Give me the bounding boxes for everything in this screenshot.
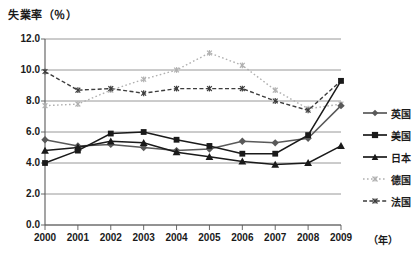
x-axis-tick-label: 2001 — [62, 232, 94, 243]
legend-label: 英国 — [391, 106, 411, 121]
plot-area — [0, 0, 416, 265]
series-line-德国 — [45, 53, 341, 109]
x-axis-tick-label: 2008 — [292, 232, 324, 243]
legend-label: 德国 — [391, 172, 411, 187]
legend-marker-diamond-icon — [362, 107, 388, 119]
y-axis-tick-label: 2.0 — [9, 188, 40, 199]
series-line-美国 — [45, 81, 341, 163]
legend-marker-star-icon — [362, 173, 388, 185]
data-point-美国 — [338, 78, 344, 84]
data-point-英国 — [239, 138, 246, 145]
x-axis-tick-label: 2007 — [259, 232, 291, 243]
x-axis-tick-label: 2003 — [128, 232, 160, 243]
data-point-英国 — [41, 136, 48, 143]
legend-label: 美国 — [391, 128, 411, 143]
legend-marker-square-icon — [362, 129, 388, 141]
legend-marker-star-icon — [362, 195, 388, 207]
x-axis-tick-label: 2005 — [193, 232, 225, 243]
series-line-日本 — [45, 141, 341, 164]
data-point-美国 — [174, 137, 180, 143]
legend-item-英国[interactable]: 英国 — [362, 102, 411, 124]
x-axis-tick-label: 2000 — [29, 232, 61, 243]
data-point-美国 — [272, 151, 278, 157]
data-point-英国 — [272, 139, 279, 146]
unemployment-rate-line-chart: 失業率（％） 英国美国日本德国法国 （年） 0.02.04.06.08.010.… — [0, 0, 416, 265]
data-point-美国 — [108, 131, 114, 137]
y-axis-tick-label: 6.0 — [9, 126, 40, 137]
legend-item-日本[interactable]: 日本 — [362, 146, 411, 168]
data-point-美国 — [42, 160, 48, 166]
legend-marker-triangle-icon — [362, 151, 388, 163]
data-point-美国 — [207, 143, 213, 149]
y-axis-tick-label: 10.0 — [9, 64, 40, 75]
x-axis-tick-label: 2004 — [161, 232, 193, 243]
series-line-法国 — [45, 72, 341, 111]
legend-item-美国[interactable]: 美国 — [362, 124, 411, 146]
data-point-美国 — [305, 132, 311, 138]
y-axis-tick-label: 4.0 — [9, 157, 40, 168]
data-point-美国 — [141, 129, 147, 135]
legend-item-德国[interactable]: 德国 — [362, 168, 411, 190]
data-point-美国 — [239, 151, 245, 157]
legend-label: 法国 — [391, 194, 411, 209]
y-axis-tick-label: 8.0 — [9, 95, 40, 106]
chart-legend: 英国美国日本德国法国 — [362, 102, 411, 212]
x-axis-tick-label: 2006 — [226, 232, 258, 243]
y-axis-tick-label: 0.0 — [9, 219, 40, 230]
legend-item-法国[interactable]: 法国 — [362, 190, 411, 212]
x-axis-tick-label: 2002 — [95, 232, 127, 243]
x-axis-unit-label: （年） — [368, 232, 398, 247]
x-axis-tick-label: 2009 — [325, 232, 357, 243]
legend-label: 日本 — [391, 150, 411, 165]
y-axis-tick-label: 12.0 — [9, 33, 40, 44]
data-point-日本 — [337, 142, 345, 149]
